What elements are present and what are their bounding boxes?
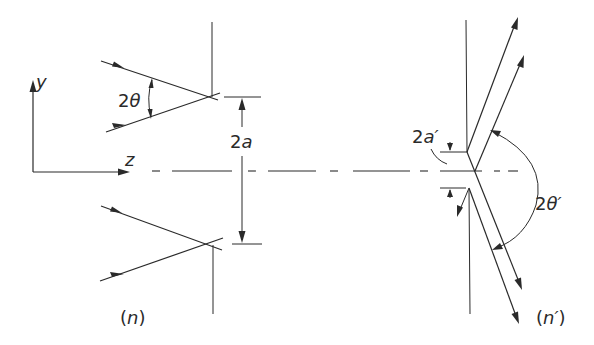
angle-arrow-icon bbox=[492, 243, 503, 250]
dimension-arrow-icon bbox=[447, 189, 453, 197]
separation-label-a-prime: a′ bbox=[423, 126, 438, 147]
ray-arrow-icon bbox=[110, 207, 122, 214]
ray-arrow-icon bbox=[511, 17, 518, 30]
dimension-arrow-icon bbox=[239, 98, 246, 110]
angle-arrow-icon bbox=[490, 130, 501, 137]
outgoing-beams-upper bbox=[467, 17, 524, 171]
svg-text:2θ: 2θ bbox=[118, 90, 140, 111]
angle-label-theta-prime: θ′ bbox=[546, 193, 561, 214]
boundary-line-lower bbox=[469, 190, 470, 314]
left-panel-medium-n: 2θ 2a (n) bbox=[100, 22, 262, 328]
y-axis-label: y bbox=[35, 71, 47, 92]
angle-2theta-dimension: 2θ bbox=[118, 78, 154, 119]
ray-arrow-icon bbox=[515, 278, 523, 291]
coordinate-axes: y z bbox=[30, 71, 136, 176]
angle-label-2: 2 bbox=[535, 193, 546, 214]
svg-text:2θ′: 2θ′ bbox=[535, 193, 562, 214]
svg-text:2a′: 2a′ bbox=[412, 126, 439, 147]
angle-label-theta: θ bbox=[129, 90, 140, 111]
angle-label-2: 2 bbox=[118, 90, 129, 111]
ray-arrow-icon bbox=[517, 55, 524, 68]
angle-2theta-prime-dimension: 2θ′ bbox=[490, 130, 562, 250]
ray-arrow-icon bbox=[512, 312, 520, 325]
medium-label-n-prime: (n′) bbox=[536, 307, 566, 328]
separation-label-2: 2 bbox=[412, 126, 423, 147]
separation-label-2: 2 bbox=[230, 131, 241, 152]
optics-diagram: y z 2θ bbox=[0, 0, 594, 345]
lower-beam-pair bbox=[100, 206, 223, 281]
separation-label-a: a bbox=[241, 131, 252, 152]
incoming-stub bbox=[457, 188, 469, 217]
leader-line bbox=[431, 149, 447, 164]
z-axis-label: z bbox=[124, 149, 135, 170]
svg-text:2a: 2a bbox=[230, 131, 252, 152]
angle-arrow-icon bbox=[149, 78, 154, 88]
right-panel-medium-n-prime: 2a′ 2θ′ (n′) bbox=[412, 17, 566, 328]
medium-label-n: (n) bbox=[120, 307, 145, 328]
dimension-arrow-icon bbox=[239, 231, 246, 243]
ray-arrow-icon bbox=[112, 62, 124, 69]
dimension-arrow-icon bbox=[447, 143, 453, 151]
ray-arrow-icon bbox=[457, 205, 463, 217]
boundary-line-upper bbox=[466, 20, 467, 152]
separation-2a-prime-dimension: 2a′ bbox=[412, 126, 468, 198]
